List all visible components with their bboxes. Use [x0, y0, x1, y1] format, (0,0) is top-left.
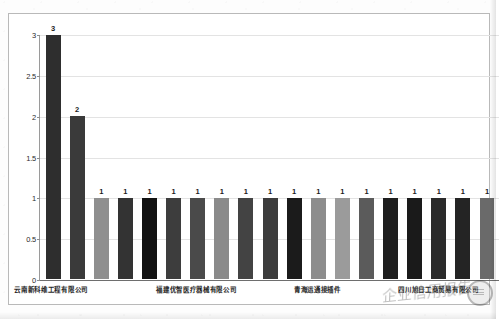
bar-value-label: 1 — [123, 187, 127, 196]
bar[interactable]: 1 — [142, 198, 157, 279]
x-axis-label: 云南新科维工程有限公司 — [14, 284, 88, 294]
chart-frame: 00.511.522.53 3211111111111111111 云南新科维工… — [8, 13, 490, 305]
bar[interactable]: 1 — [383, 198, 398, 279]
scan-bottom-shadow — [0, 312, 496, 319]
plot-area: 00.511.522.53 3211111111111111111 云南新科维工… — [39, 27, 499, 308]
bar[interactable]: 1 — [480, 198, 495, 279]
bar-value-label: 1 — [172, 187, 176, 196]
bar-series: 3211111111111111111 — [41, 35, 499, 279]
bar-slot: 1 — [258, 35, 282, 279]
bar-value-label: 1 — [268, 187, 272, 196]
bar[interactable]: 1 — [214, 198, 229, 279]
x-axis-labels: 云南新科维工程有限公司福建优智医疗器械有限公司青海运通接插件四川旭日工商贸易有限… — [39, 284, 499, 302]
y-tick-mark — [37, 158, 40, 159]
bar-slot: 1 — [162, 35, 186, 279]
bar-slot: 1 — [427, 35, 451, 279]
bar[interactable]: 1 — [431, 198, 446, 279]
bar[interactable]: 1 — [94, 198, 109, 279]
bar[interactable]: 1 — [359, 198, 374, 279]
bar-value-label: 1 — [220, 187, 224, 196]
bar[interactable]: 1 — [238, 198, 253, 279]
bar-value-label: 1 — [244, 187, 248, 196]
bar-slot: 1 — [186, 35, 210, 279]
bar[interactable]: 1 — [407, 198, 422, 279]
bar-value-label: 1 — [292, 187, 296, 196]
bar-value-label: 1 — [147, 187, 151, 196]
bar-value-label: 1 — [461, 187, 465, 196]
bar[interactable]: 1 — [166, 198, 181, 279]
bar-slot: 3 — [41, 35, 65, 279]
bar-slot: 1 — [475, 35, 499, 279]
bar[interactable]: 1 — [190, 198, 205, 279]
bar-value-label: 1 — [196, 187, 200, 196]
bar-value-label: 1 — [485, 187, 489, 196]
bar-slot: 1 — [379, 35, 403, 279]
y-tick-mark — [37, 239, 40, 240]
y-tick-label: 1.5 — [26, 153, 36, 162]
bar-value-label: 1 — [437, 187, 441, 196]
x-axis-label: 青海运通接插件 — [294, 284, 341, 294]
y-tick-mark — [37, 117, 40, 118]
bar-value-label: 1 — [388, 187, 392, 196]
y-tick-label: 0.5 — [26, 235, 36, 244]
y-tick-mark — [37, 198, 40, 199]
bar-slot: 1 — [89, 35, 113, 279]
bar-slot: 1 — [234, 35, 258, 279]
bar-value-label: 2 — [75, 105, 79, 114]
x-axis-label: 四川旭日工商贸易有限公司 — [398, 284, 478, 294]
y-tick-mark — [37, 280, 40, 281]
bar-value-label: 1 — [340, 187, 344, 196]
bar-slot: 2 — [65, 35, 89, 279]
bar-slot: 1 — [282, 35, 306, 279]
bar[interactable]: 1 — [263, 198, 278, 279]
bar-value-label: 1 — [413, 187, 417, 196]
bar-slot: 1 — [137, 35, 161, 279]
bar[interactable]: 1 — [455, 198, 470, 279]
bar-slot: 1 — [354, 35, 378, 279]
y-tick-mark — [37, 76, 40, 77]
bar[interactable]: 1 — [287, 198, 302, 279]
bar-value-label: 1 — [99, 187, 103, 196]
bar[interactable]: 2 — [70, 116, 85, 279]
bar-slot: 1 — [210, 35, 234, 279]
bar-slot: 1 — [330, 35, 354, 279]
bar-slot: 1 — [113, 35, 137, 279]
bar[interactable]: 1 — [118, 198, 133, 279]
bar-slot: 1 — [451, 35, 475, 279]
y-tick-label: 2 — [32, 112, 36, 121]
x-axis-label: 福建优智医疗器械有限公司 — [156, 284, 236, 294]
y-tick-label: 2.5 — [26, 71, 36, 80]
y-tick-label: 1 — [32, 194, 36, 203]
bar-slot: 1 — [403, 35, 427, 279]
bar-value-label: 3 — [51, 24, 55, 33]
bar-value-label: 1 — [364, 187, 368, 196]
bar[interactable]: 3 — [46, 35, 61, 279]
bar-value-label: 1 — [316, 187, 320, 196]
bar-slot: 1 — [306, 35, 330, 279]
plot-inner: 00.511.522.53 3211111111111111111 — [39, 35, 499, 281]
bar[interactable]: 1 — [335, 198, 350, 279]
y-tick-label: 3 — [32, 31, 36, 40]
bar[interactable]: 1 — [311, 198, 326, 279]
y-tick-mark — [37, 35, 40, 36]
